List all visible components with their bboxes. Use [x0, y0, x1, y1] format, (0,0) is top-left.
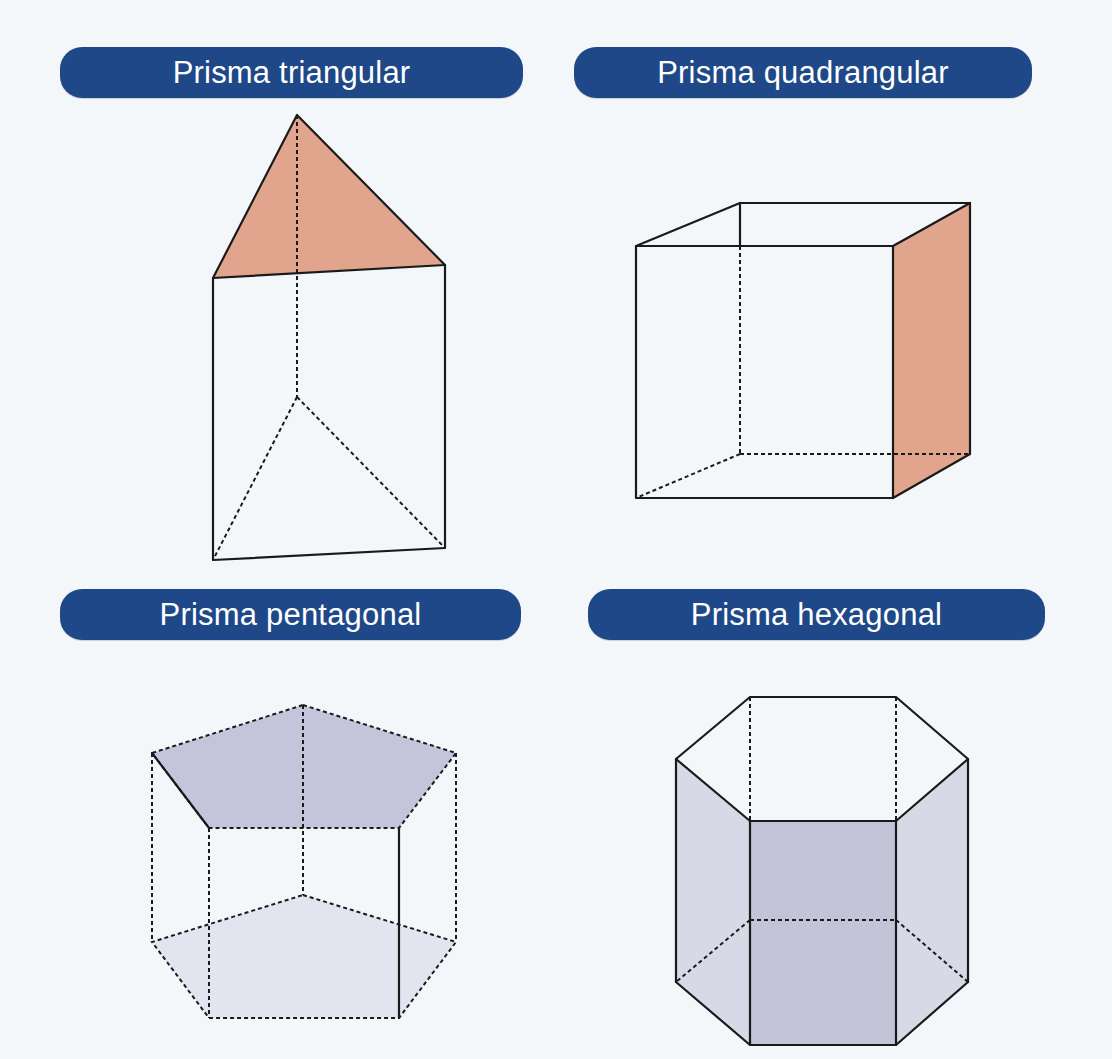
hexagonal-front-face — [750, 821, 896, 1045]
triangular-prism-shape — [213, 115, 445, 560]
hexagonal-prism-shape — [676, 697, 968, 1045]
pentagonal-top-base — [152, 705, 456, 828]
hexagonal-right-face — [896, 759, 968, 1045]
pentagonal-prism-shape — [152, 705, 456, 1018]
triangular-top-base — [213, 115, 445, 278]
pentagonal-bottom-base — [152, 895, 456, 1018]
hexagonal-left-face — [676, 759, 750, 1045]
quadrangular-prism-shape — [636, 203, 970, 498]
prisms-diagram — [0, 0, 1112, 1059]
